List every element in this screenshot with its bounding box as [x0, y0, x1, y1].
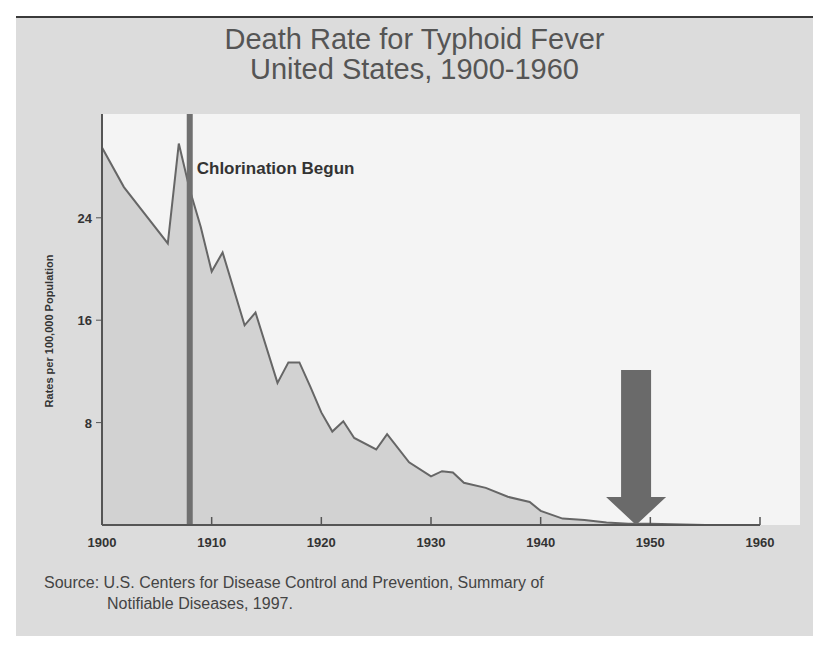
chlorination-marker-line: [187, 114, 193, 525]
y-tick-label: 8: [85, 416, 92, 431]
chart-slide: Death Rate for Typhoid Fever United Stat…: [16, 16, 813, 636]
x-tick-label: 1950: [636, 535, 665, 550]
x-tick-label: 1920: [307, 535, 336, 550]
x-tick-label: 1900: [88, 535, 117, 550]
y-tick-label: 24: [78, 211, 93, 226]
source-note: Source: U.S. Centers for Disease Control…: [44, 572, 544, 614]
y-tick-label: 16: [78, 313, 92, 328]
x-tick-label: 1910: [197, 535, 226, 550]
x-tick-label: 1960: [746, 535, 775, 550]
source-line2: Notifiable Diseases, 1997.: [44, 593, 544, 614]
x-tick-label: 1930: [417, 535, 446, 550]
source-line1: Source: U.S. Centers for Disease Control…: [44, 574, 544, 591]
chart-plot: Chlorination Begun 190019101920193019401…: [16, 18, 813, 638]
x-tick-label: 1940: [526, 535, 555, 550]
y-axis-label: Rates per 100,000 Population: [43, 254, 55, 407]
chlorination-label: Chlorination Begun: [197, 159, 355, 178]
